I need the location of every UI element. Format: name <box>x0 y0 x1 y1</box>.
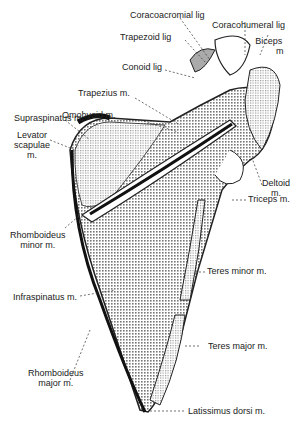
label-conoid: Conoid lig <box>122 62 162 72</box>
scapula-diagram: Coracoacromial lig Coracohumeral lig Tra… <box>0 0 297 430</box>
label-teres-minor: Teres minor m. <box>207 266 267 276</box>
label-rhomboideus-major: Rhomboideusmajor m. <box>28 368 84 388</box>
label-teres-major: Teres major m. <box>208 341 268 351</box>
acromion <box>215 36 250 75</box>
label-levator-scapulae: Levatorscapulaem. <box>14 130 50 160</box>
label-infraspinatus: Infraspinatus m. <box>13 292 77 302</box>
label-trapezoid: Trapezoid lig <box>120 32 171 42</box>
label-supraspinatus: Supraspinatus m. <box>14 113 84 123</box>
label-rhomboideus-minor: Rhomboideusminor m. <box>10 230 66 250</box>
label-latissimus-dorsi: Latissimus dorsi m. <box>188 406 265 416</box>
label-coracoacromial: Coracoacromial lig <box>130 10 205 20</box>
coracoid <box>190 49 215 72</box>
label-biceps: Bicepsm <box>254 36 284 56</box>
label-coracohumeral: Coracohumeral lig <box>212 20 285 30</box>
label-triceps: Triceps m. <box>248 194 290 204</box>
label-trapezius: Trapezius m. <box>78 88 130 98</box>
